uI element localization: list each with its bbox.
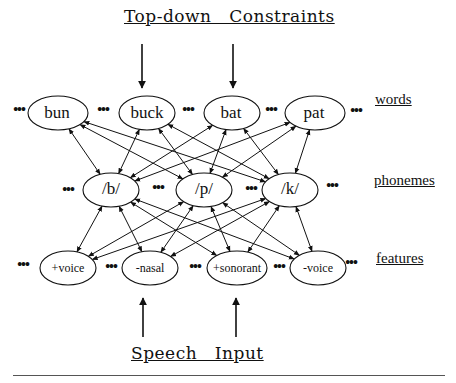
speech-input-arrows bbox=[143, 298, 236, 337]
ellipsis-icon: ••• bbox=[13, 102, 25, 118]
ellipsis-icon: ••• bbox=[265, 102, 277, 118]
ellipsis-icon: ••• bbox=[152, 180, 164, 196]
word-label-buck: buck bbox=[130, 103, 163, 123]
ellipsis-icon: ••• bbox=[62, 182, 74, 198]
phoneme-label-p: /p/ bbox=[195, 179, 213, 199]
word-label-bat: bat bbox=[221, 103, 242, 123]
feature-label-minus-nasal: -nasal bbox=[136, 261, 165, 276]
level-label-features: features bbox=[376, 250, 423, 267]
ellipsis-icon: ••• bbox=[245, 181, 257, 197]
feature-label-plus-sonorant: +sonorant bbox=[213, 261, 261, 276]
phoneme-label-b: /b/ bbox=[102, 179, 120, 199]
bottom-divider bbox=[13, 375, 445, 376]
speech-input-title: Speech Input bbox=[131, 343, 264, 363]
top-down-constraints-title: Top-down Constraints bbox=[124, 6, 335, 26]
top-down-arrows bbox=[142, 44, 233, 88]
phoneme-label-k: /k/ bbox=[281, 179, 299, 199]
word-phoneme-links bbox=[69, 122, 310, 182]
ellipsis-icon: ••• bbox=[326, 178, 338, 194]
ellipsis-icon: ••• bbox=[182, 102, 194, 118]
phoneme-feature-links bbox=[77, 199, 312, 260]
ellipsis-icon: ••• bbox=[17, 257, 29, 273]
ellipsis-icon: ••• bbox=[350, 103, 362, 119]
level-label-words: words bbox=[375, 91, 412, 108]
ellipsis-icon: ••• bbox=[273, 259, 285, 275]
ellipsis-icon: ••• bbox=[105, 259, 117, 275]
word-label-pat: pat bbox=[304, 103, 325, 123]
level-label-phonemes: phonemes bbox=[374, 172, 435, 189]
ellipsis-icon: ••• bbox=[345, 255, 357, 271]
word-label-bun: bun bbox=[44, 103, 70, 123]
feature-label-plus-voice: +voice bbox=[52, 261, 85, 276]
feature-label-minus-voice: -voice bbox=[303, 261, 333, 276]
ellipsis-icon: ••• bbox=[189, 259, 201, 275]
ellipsis-icon: ••• bbox=[97, 102, 109, 118]
